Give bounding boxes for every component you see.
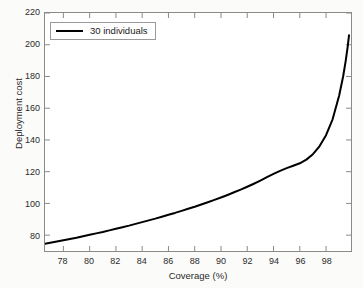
legend-line-swatch: [56, 30, 83, 32]
figure-canvas: 80100120140160180200220 Deployment cost …: [0, 0, 363, 288]
x-tick-label: 98: [312, 257, 342, 266]
chart-legend: 30 individuals: [50, 22, 156, 40]
y-tick-label: 100: [12, 200, 40, 209]
x-axis-tick-labels: 7880828486889092949698: [44, 257, 352, 269]
legend-entry-label: 30 individuals: [90, 26, 148, 36]
y-tick-label: 80: [12, 232, 40, 241]
y-tick-label: 220: [12, 8, 40, 17]
axis-tick-marks: [45, 13, 351, 251]
line-chart-svg: [45, 13, 351, 251]
series-line-30-individuals: [45, 35, 349, 243]
y-axis-title: Deployment cost: [13, 44, 24, 184]
x-axis-title: Coverage (%): [44, 270, 352, 281]
plot-area: [44, 12, 352, 252]
